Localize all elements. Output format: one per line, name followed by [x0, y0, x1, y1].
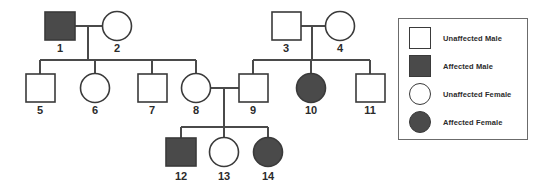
- individual-9-unaffected-male[interactable]: [239, 74, 268, 102]
- individual-4-unaffected-female[interactable]: [326, 12, 355, 41]
- label-individual-2: 2: [114, 42, 120, 54]
- label-individual-6: 6: [92, 104, 98, 116]
- legend-item-affected-female: Affected Female: [409, 109, 502, 135]
- unaffected-female-circle-icon: [409, 83, 431, 105]
- label-individual-14: 14: [262, 170, 275, 182]
- individual-7-unaffected-male[interactable]: [138, 74, 167, 102]
- label-individual-9: 9: [250, 104, 256, 116]
- affected-male-square-icon: [409, 55, 431, 77]
- individual-12-affected-male[interactable]: [166, 138, 196, 166]
- label-individual-1: 1: [57, 42, 63, 54]
- label-individual-7: 7: [149, 104, 155, 116]
- individual-6-unaffected-female[interactable]: [81, 74, 110, 103]
- individual-14-affected-female[interactable]: [254, 138, 283, 167]
- label-individual-3: 3: [283, 42, 289, 54]
- legend-label-affected-female: Affected Female: [443, 118, 502, 127]
- label-individual-10: 10: [305, 104, 317, 116]
- affected-female-circle-icon: [409, 111, 431, 133]
- legend-item-unaffected-female: Unaffected Female: [409, 81, 511, 107]
- individual-13-unaffected-female[interactable]: [210, 138, 239, 167]
- unaffected-male-square-icon: [409, 27, 431, 49]
- label-individual-12: 12: [175, 170, 187, 182]
- label-individual-5: 5: [37, 104, 43, 116]
- label-individual-4: 4: [337, 42, 344, 54]
- individual-2-unaffected-female[interactable]: [103, 12, 132, 41]
- individual-8-unaffected-female[interactable]: [182, 74, 211, 103]
- pedigree-symbols: [26, 12, 385, 167]
- label-individual-13: 13: [218, 170, 230, 182]
- individual-3-unaffected-male[interactable]: [272, 12, 301, 40]
- label-individual-11: 11: [364, 104, 376, 116]
- legend-label-unaffected-female: Unaffected Female: [443, 90, 511, 99]
- individual-5-unaffected-male[interactable]: [26, 74, 55, 102]
- legend-panel: Unaffected Male Affected Male Unaffected…: [398, 18, 528, 140]
- legend-label-affected-male: Affected Male: [443, 62, 493, 71]
- legend-item-unaffected-male: Unaffected Male: [409, 25, 502, 51]
- pedigree-chart: 1 2 3 4 5 6 7 8 9 10 11 12 13 14 Unaffec…: [0, 0, 535, 186]
- individual-1-affected-male[interactable]: [45, 12, 75, 40]
- legend-label-unaffected-male: Unaffected Male: [443, 34, 502, 43]
- individual-labels: 1 2 3 4 5 6 7 8 9 10 11 12 13 14: [37, 42, 376, 182]
- individual-10-affected-female[interactable]: [297, 74, 326, 103]
- label-individual-8: 8: [193, 104, 199, 116]
- legend-item-affected-male: Affected Male: [409, 53, 493, 79]
- individual-11-unaffected-male[interactable]: [356, 74, 385, 102]
